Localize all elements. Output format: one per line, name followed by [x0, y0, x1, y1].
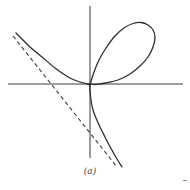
figure-label: (a)	[80, 166, 100, 176]
corner-mark	[183, 180, 187, 181]
folium-curve	[16, 22, 155, 167]
folium-diagram	[0, 0, 190, 190]
